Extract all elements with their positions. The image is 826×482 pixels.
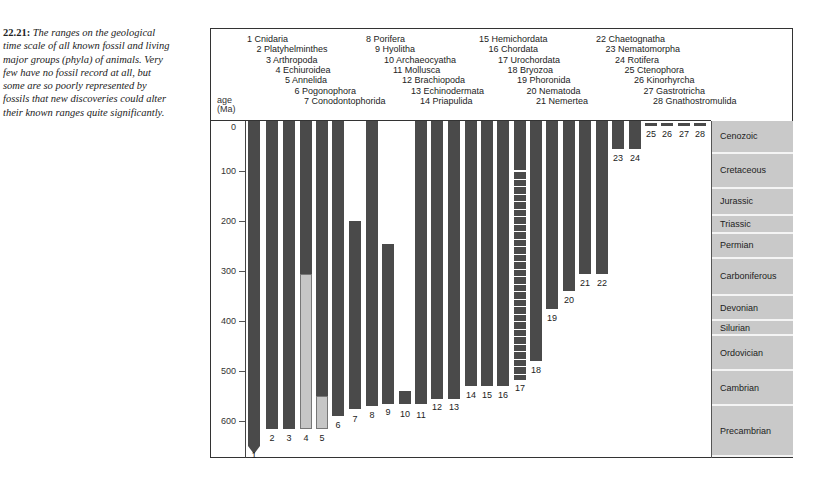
- range-bar-dash: [514, 330, 526, 337]
- range-bar: [349, 221, 361, 409]
- bar-number-label: 22: [592, 278, 612, 288]
- range-bar: [661, 123, 673, 126]
- y-tick-mark: [239, 271, 245, 272]
- y-tick-label: 400: [210, 316, 236, 326]
- bar-number-label: 13: [444, 402, 464, 412]
- range-bar-dash: [514, 247, 526, 254]
- range-bar-dash: [514, 202, 526, 209]
- range-bar-dash: [514, 195, 526, 202]
- range-bar-dash: [514, 322, 526, 329]
- range-bar-dash: [514, 225, 526, 232]
- era-band: Devonian: [712, 296, 793, 321]
- era-label: Devonian: [720, 303, 758, 313]
- range-bar: [316, 121, 328, 396]
- era-label: Cambrian: [720, 383, 759, 393]
- bar-number-label: 17: [510, 383, 530, 393]
- range-bar-dash: [514, 172, 526, 179]
- bar-number-label: 18: [526, 365, 546, 375]
- range-bar: [399, 391, 411, 404]
- era-band: Silurian: [712, 321, 793, 336]
- range-bar: [579, 121, 591, 274]
- y-tick-mark: [239, 371, 245, 372]
- phylum-label: 21 Nemertea: [536, 96, 588, 107]
- range-bar-dash: [514, 307, 526, 314]
- era-band: Cenozoic: [712, 121, 793, 154]
- range-bar: [283, 121, 295, 429]
- y-tick-label: 0: [210, 122, 236, 132]
- range-bar: [266, 121, 278, 429]
- range-bar-dash: [514, 262, 526, 269]
- range-bar-dash: [514, 255, 526, 262]
- y-axis-title: age (Ma): [217, 96, 236, 114]
- range-bar: [514, 121, 526, 170]
- figure-number: 22.21:: [3, 27, 30, 38]
- range-bar-dash: [514, 367, 526, 374]
- bar-number-label: 28: [690, 129, 710, 139]
- range-bar: [596, 121, 608, 274]
- range-bar: [612, 121, 624, 149]
- bar-number-label: 1: [244, 450, 264, 460]
- era-band: Cretaceous: [712, 154, 793, 189]
- y-tick-label: 600: [210, 416, 236, 426]
- range-bar: [497, 121, 509, 386]
- range-bar: [366, 121, 378, 406]
- era-label: Triassic: [720, 219, 751, 229]
- era-band: Permian: [712, 234, 793, 259]
- range-bar-dash: [514, 300, 526, 307]
- range-bar: [481, 121, 493, 386]
- range-bar: [694, 123, 706, 126]
- y-tick-label: 300: [210, 266, 236, 276]
- range-bar-dash: [514, 180, 526, 187]
- range-bar-dash: [514, 360, 526, 367]
- range-bar: [431, 121, 443, 399]
- figure-caption: 22.21: The ranges on the geological time…: [3, 26, 175, 119]
- bar-number-label: 5: [312, 433, 332, 443]
- phylum-label: 28 Gnathostromulida: [653, 96, 737, 107]
- bar-number-label: 19: [542, 313, 562, 323]
- range-bar: [465, 121, 477, 386]
- y-axis-line: [245, 121, 246, 458]
- range-bar-dash: [514, 375, 526, 380]
- era-label: Permian: [720, 240, 754, 250]
- range-bar: [382, 244, 394, 404]
- y-tick-label: 200: [210, 216, 236, 226]
- range-bar-dash: [514, 210, 526, 217]
- era-label: Carboniferous: [720, 271, 777, 281]
- y-axis-title-line2: (Ma): [217, 105, 236, 114]
- range-bar-dash: [514, 270, 526, 277]
- era-label: Cretaceous: [720, 165, 766, 175]
- range-bar-dash: [514, 187, 526, 194]
- range-bar-dash: [514, 315, 526, 322]
- y-tick-label: 100: [210, 166, 236, 176]
- era-label: Silurian: [720, 323, 750, 333]
- range-bar: [629, 121, 641, 149]
- range-bar: [645, 123, 657, 126]
- y-tick-mark: [239, 321, 245, 322]
- range-bar-dash: [514, 285, 526, 292]
- era-label: Jurassic: [720, 196, 753, 206]
- era-band: Precambrian: [712, 406, 793, 457]
- phylum-label: 14 Priapulida: [420, 96, 473, 107]
- caption-text: The ranges on the geological time scale …: [3, 27, 170, 118]
- phylum-label: 7 Conodontophorida: [304, 96, 386, 107]
- era-label: Cenozoic: [720, 131, 758, 141]
- range-bar: [678, 123, 690, 126]
- bar-number-label: 20: [559, 295, 579, 305]
- range-bar-dash: [514, 232, 526, 239]
- range-bar: [448, 121, 460, 399]
- y-tick-mark: [239, 171, 245, 172]
- range-bar-dash: [514, 337, 526, 344]
- era-label: Precambrian: [720, 426, 771, 436]
- range-bar: [563, 121, 575, 291]
- y-tick-mark: [239, 221, 245, 222]
- range-bar-dash: [514, 345, 526, 352]
- era-label: Ordovician: [720, 348, 763, 358]
- era-band: Carboniferous: [712, 259, 793, 297]
- range-bar: [332, 121, 344, 416]
- era-band: Cambrian: [712, 371, 793, 406]
- range-bar-dash: [514, 292, 526, 299]
- era-column: CenozoicCretaceousJurassicTriassicPermia…: [711, 121, 793, 458]
- era-band: Ordovician: [712, 336, 793, 371]
- bar-number-label: 24: [625, 153, 645, 163]
- y-tick-label: 500: [210, 366, 236, 376]
